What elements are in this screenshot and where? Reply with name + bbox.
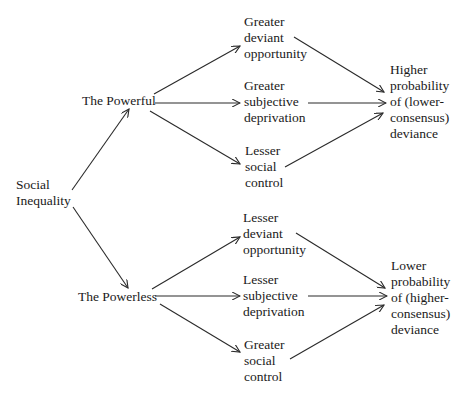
node-line: Lower: [391, 258, 450, 274]
node-line: Greater: [244, 78, 305, 94]
node-lesser-social-control: Lesser social control: [245, 143, 283, 191]
node-line: deviance: [390, 126, 449, 142]
arrow-inequality-to-powerful: [72, 109, 129, 190]
node-line: control: [244, 369, 284, 385]
node-line: Social: [16, 177, 71, 193]
node-line: social: [244, 353, 284, 369]
node-line: Inequality: [16, 193, 71, 209]
node-higher-probability-deviance: Higher probability of (lower- consensus)…: [390, 62, 449, 142]
node-line: Lesser: [243, 210, 306, 226]
node-lesser-deviant-opportunity: Lesser deviant opportunity: [243, 210, 306, 258]
node-line: subjective: [244, 94, 305, 110]
node-line: of (lower-: [390, 94, 449, 110]
arrow-inequality-to-powerless: [73, 207, 128, 288]
node-line: Higher: [390, 62, 449, 78]
node-line: The Powerful: [82, 93, 156, 109]
node-line: Greater: [244, 14, 307, 30]
node-line: subjective: [243, 288, 304, 304]
arrow-opportunity-to-higher: [294, 37, 384, 92]
node-line: deviant: [244, 30, 307, 46]
node-line: probability: [390, 78, 449, 94]
node-social-inequality: Social Inequality: [16, 177, 71, 209]
node-greater-social-control: Greater social control: [244, 337, 284, 385]
node-the-powerless: The Powerless: [78, 289, 157, 305]
node-line: deviant: [243, 226, 306, 242]
node-line: Greater: [244, 337, 284, 353]
node-line: control: [245, 175, 283, 191]
node-lower-probability-deviance: Lower probability of (higher- consensus)…: [391, 258, 450, 338]
node-line: probability: [391, 274, 450, 290]
node-line: Lesser: [245, 143, 283, 159]
node-greater-subjective-deprivation: Greater subjective deprivation: [244, 78, 305, 126]
node-line: Lesser: [243, 272, 304, 288]
node-line: deprivation: [243, 304, 304, 320]
node-line: deprivation: [244, 110, 305, 126]
arrow-opportunity-to-lower: [296, 233, 385, 288]
node-line: The Powerless: [78, 289, 157, 305]
node-line: social: [245, 159, 283, 175]
node-line: consensus): [390, 110, 449, 126]
node-greater-deviant-opportunity: Greater deviant opportunity: [244, 14, 307, 62]
arrow-powerful-to-opportunity: [154, 46, 240, 94]
node-the-powerful: The Powerful: [82, 93, 156, 109]
node-lesser-subjective-deprivation: Lesser subjective deprivation: [243, 272, 304, 320]
arrow-powerless-to-control: [160, 304, 240, 352]
node-line: of (higher-: [391, 290, 450, 306]
arrow-powerless-to-opportunity: [152, 237, 240, 289]
node-line: deviance: [391, 322, 450, 338]
arrow-powerful-to-control: [150, 111, 240, 164]
node-line: opportunity: [243, 242, 306, 258]
node-line: opportunity: [244, 46, 307, 62]
node-line: consensus): [391, 306, 450, 322]
